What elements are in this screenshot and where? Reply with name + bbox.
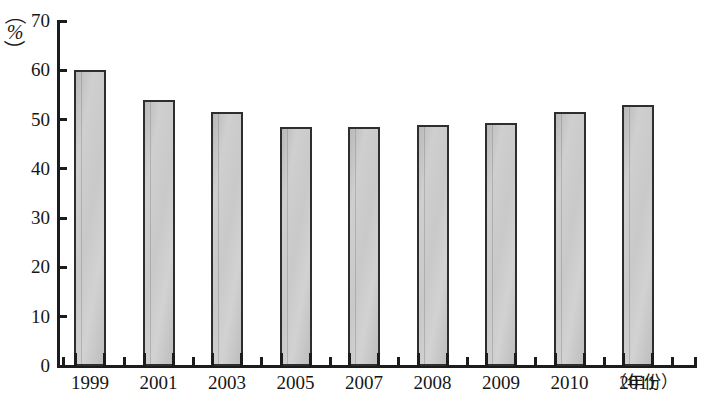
y-axis-tick xyxy=(57,217,67,220)
bar xyxy=(554,112,586,366)
x-axis-tick-label: 2005 xyxy=(264,372,328,394)
y-axis-tick xyxy=(57,20,67,23)
y-axis-tick-label: 60 xyxy=(16,60,50,79)
x-axis-tick-major xyxy=(377,353,380,366)
x-axis-tick-major xyxy=(651,353,654,366)
bar xyxy=(485,123,517,366)
y-axis-tick-label: 30 xyxy=(16,208,50,227)
y-axis-tick xyxy=(57,266,67,269)
bar-chart: （ % ） 010203040506070 199920012003200520… xyxy=(0,0,707,399)
x-axis-tick-major xyxy=(417,353,420,366)
x-axis-tick-label: 1999 xyxy=(58,372,122,394)
x-axis-tick-major xyxy=(348,353,351,366)
x-axis-tick-major xyxy=(211,353,214,366)
x-axis-tick-label: 2003 xyxy=(195,372,259,394)
bar xyxy=(622,105,654,366)
y-axis-tick-label: 70 xyxy=(16,11,50,30)
y-axis-unit-paren-close: ） xyxy=(8,38,21,60)
x-axis-unit-label: （年份） xyxy=(610,372,706,394)
x-axis-tick-major xyxy=(554,353,557,366)
y-axis-tick-label: 0 xyxy=(16,356,50,375)
x-axis-tick-major xyxy=(622,353,625,366)
x-axis-right-cap xyxy=(694,357,697,368)
x-axis-tick-major xyxy=(74,353,77,366)
y-axis-tick xyxy=(57,315,67,318)
x-axis-tick-major xyxy=(485,353,488,366)
bar xyxy=(211,112,243,366)
bar xyxy=(143,100,175,366)
x-axis-tick-minor xyxy=(329,357,332,366)
x-axis-tick-minor xyxy=(671,357,674,366)
x-axis-tick-label: 2009 xyxy=(469,372,533,394)
x-axis-tick-label: 2010 xyxy=(538,372,602,394)
x-axis-tick-minor xyxy=(603,357,606,366)
y-axis-tick xyxy=(57,69,67,72)
x-axis-tick-label: 2008 xyxy=(401,372,465,394)
x-axis-tick-major xyxy=(143,353,146,366)
x-axis-tick-major xyxy=(583,353,586,366)
x-axis-tick-major xyxy=(514,353,517,366)
x-axis-tick-major xyxy=(446,353,449,366)
x-axis-tick-minor xyxy=(192,357,195,366)
bar xyxy=(74,70,106,366)
x-axis-tick-minor xyxy=(62,357,65,366)
x-axis-tick-label: 2007 xyxy=(332,372,396,394)
y-axis-tick xyxy=(57,167,67,170)
bar xyxy=(280,127,312,366)
y-axis-tick-label: 50 xyxy=(16,110,50,129)
x-axis-tick-minor xyxy=(260,357,263,366)
x-axis-tick-minor xyxy=(123,357,126,366)
x-axis-tick-minor xyxy=(397,357,400,366)
x-axis-tick-minor xyxy=(534,357,537,366)
y-axis-tick-label: 40 xyxy=(16,159,50,178)
bar xyxy=(417,125,449,367)
x-axis-tick-major xyxy=(280,353,283,366)
y-axis-tick xyxy=(57,118,67,121)
x-axis-tick-minor xyxy=(466,357,469,366)
x-axis-tick-label: 2001 xyxy=(127,372,191,394)
x-axis-tick-major xyxy=(309,353,312,366)
x-axis-tick-major xyxy=(172,353,175,366)
x-axis-tick-major xyxy=(103,353,106,366)
y-axis-tick-label: 20 xyxy=(16,257,50,276)
x-axis-tick-major xyxy=(240,353,243,366)
bar xyxy=(348,127,380,366)
y-axis-tick-label: 10 xyxy=(16,307,50,326)
